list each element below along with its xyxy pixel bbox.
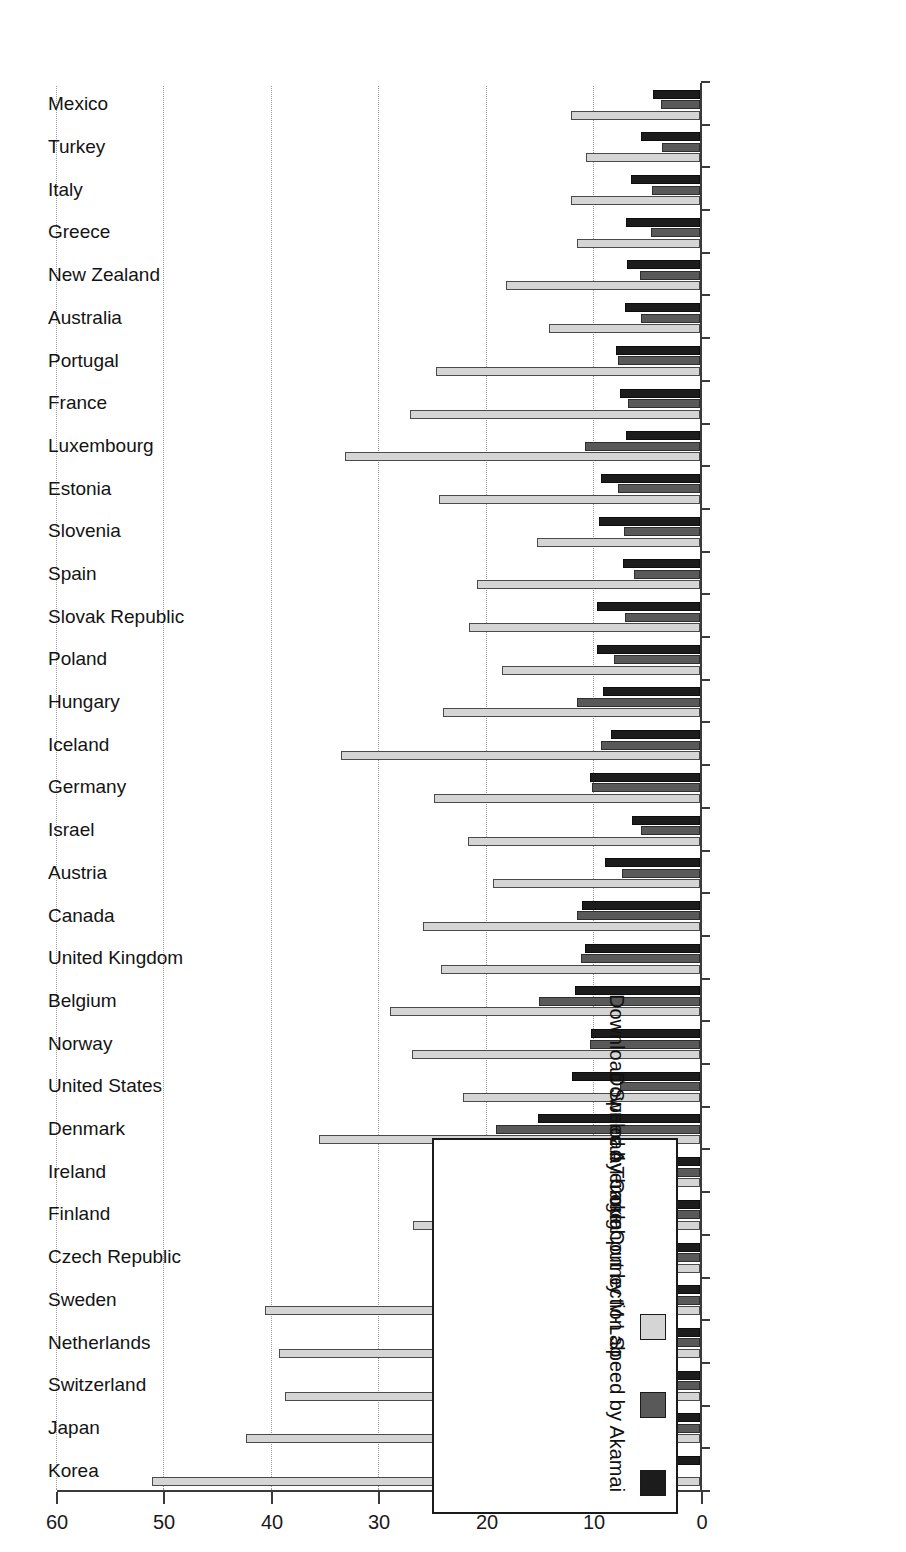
value-tick-label-0: 0 [682,1511,722,1534]
bar-ookla [477,580,700,589]
legend-swatch-akamai [640,1470,666,1496]
bar-ookla [468,837,700,846]
value-tick-label-40: 40 [252,1511,292,1534]
category-tick [701,1106,710,1108]
value-tick-0 [701,1492,703,1504]
bar-akamai [611,730,700,739]
category-label: Sweden [48,1289,278,1311]
bar-ookla [464,1093,701,1102]
value-tick-60 [56,1492,58,1504]
bar-akamai [572,1072,700,1081]
category-tick [701,551,710,553]
category-label: Ireland [48,1161,278,1183]
bar-mlab [618,356,700,365]
category-label: Hungary [48,691,278,713]
category-label: Italy [48,179,278,201]
category-label: Austria [48,862,278,884]
category-tick [701,593,710,595]
category-tick [701,1234,710,1236]
bar-akamai [605,858,700,867]
bar-akamai [653,90,700,99]
category-label: Iceland [48,734,278,756]
category-label: Luxembourg [48,435,278,457]
category-label: France [48,392,278,414]
bar-mlab [496,1125,700,1134]
category-tick [701,1405,710,1407]
bar-mlab [577,911,700,920]
bar-mlab [661,100,700,109]
bar-mlab [581,954,700,963]
category-label: Czech Republic [48,1246,278,1268]
bar-akamai [597,602,700,611]
category-tick [701,1447,710,1449]
bar-akamai [601,474,700,483]
bar-ookla [434,794,700,803]
bar-mlab [585,442,700,451]
category-tick [701,423,710,425]
category-label: Norway [48,1033,278,1055]
bar-ookla [345,452,700,461]
category-label: United States [48,1075,278,1097]
bar-akamai [616,346,700,355]
category-tick [701,1490,710,1492]
category-tick [701,679,710,681]
bar-akamai [631,175,700,184]
category-label: Greece [48,221,278,243]
category-tick [701,380,710,382]
category-tick [701,807,710,809]
bar-ookla [436,367,700,376]
bar-akamai [623,559,700,568]
category-label: Slovak Republic [48,606,278,628]
value-tick-label-10: 10 [575,1511,615,1534]
category-label: New Zealand [48,264,278,286]
category-label: Switzerland [48,1374,278,1396]
category-tick [701,721,710,723]
bar-mlab [662,143,700,152]
bar-ookla [586,153,700,162]
bar-akamai [625,303,700,312]
category-tick [701,295,710,297]
category-tick [701,892,710,894]
bar-akamai [597,645,700,654]
value-tick-30 [379,1492,381,1504]
bar-ookla [439,495,700,504]
bar-mlab [641,314,700,323]
bar-ookla [341,751,700,760]
bar-mlab [622,869,700,878]
bar-ookla [502,666,700,675]
category-label: Estonia [48,478,278,500]
category-tick [701,978,710,980]
bar-mlab [620,1082,700,1091]
bar-ookla [412,1050,700,1059]
category-label: Japan [48,1417,278,1439]
bar-mlab [641,826,700,835]
category-label: Spain [48,563,278,585]
category-label: Germany [48,777,278,799]
category-tick [701,1148,710,1150]
category-tick [701,764,710,766]
bar-akamai [626,218,700,227]
bar-mlab [614,655,700,664]
bar-mlab [601,741,700,750]
category-label: Israel [48,819,278,841]
bar-mlab [625,613,700,622]
value-tick-40 [271,1492,273,1504]
figure-page: 0102030405060 KoreaJapanSwitzerlandNethe… [0,0,906,1552]
category-tick [701,166,710,168]
value-tick-label-50: 50 [145,1511,185,1534]
category-tick [701,1191,710,1193]
bar-akamai [641,132,700,141]
bar-mlab [652,186,700,195]
category-label: Turkey [48,136,278,158]
category-label: Korea [48,1460,278,1482]
bar-mlab [618,484,700,493]
category-label: Slovenia [48,520,278,542]
bar-akamai [590,773,700,782]
category-tick [701,252,710,254]
bar-ookla [410,410,700,419]
value-tick-label-30: 30 [360,1511,400,1534]
category-tick [701,1362,710,1364]
bar-ookla [469,623,700,632]
bar-akamai [626,431,700,440]
category-tick [701,850,710,852]
